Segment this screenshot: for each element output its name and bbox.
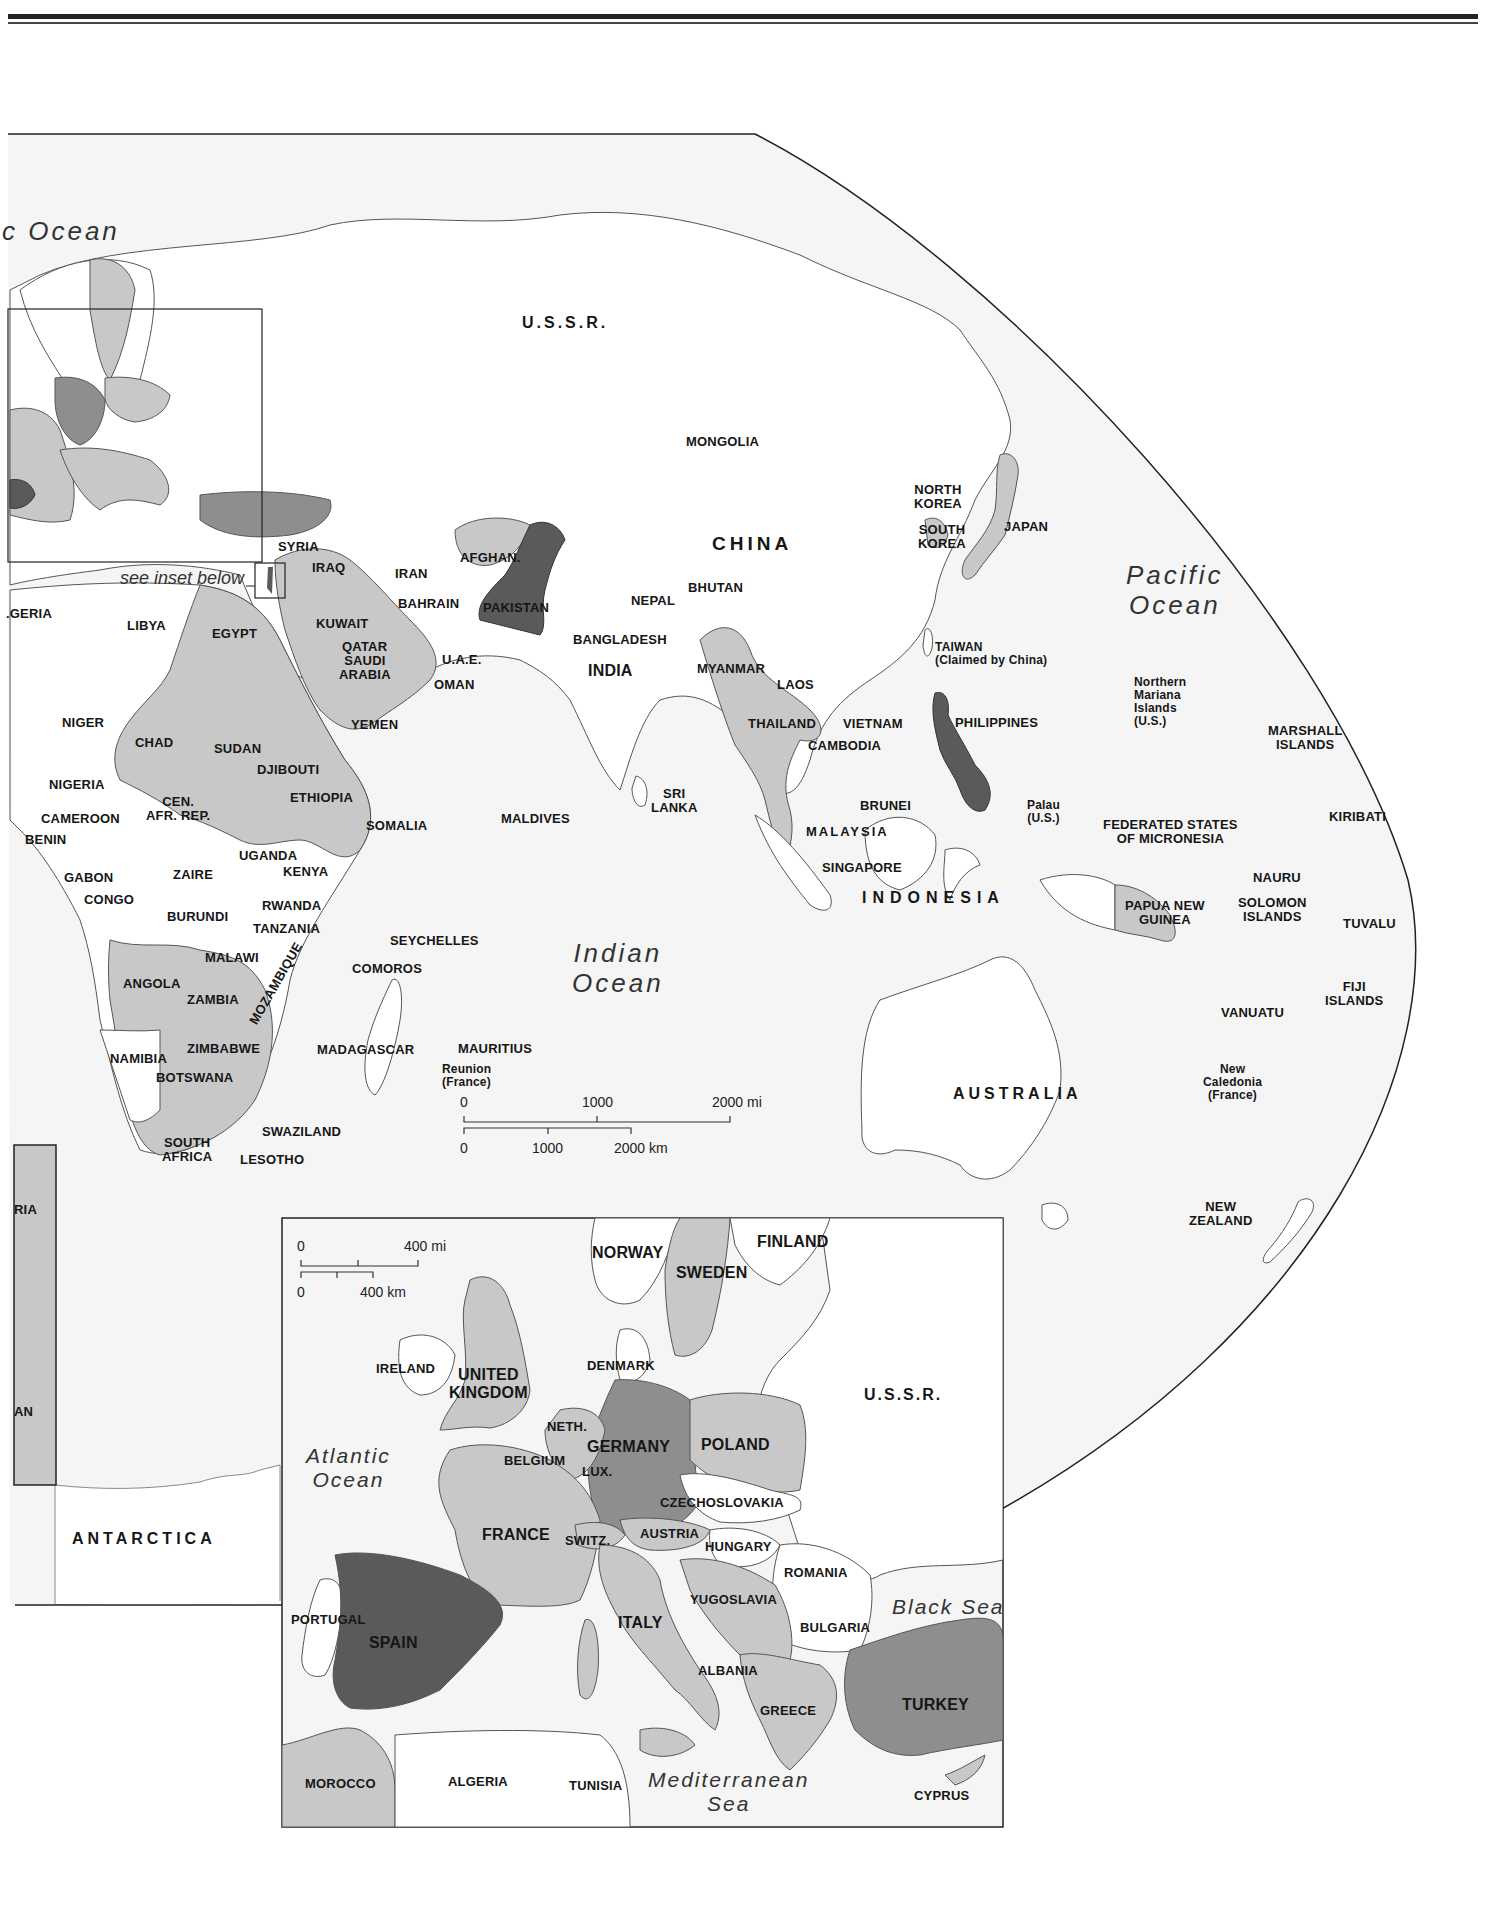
ocean-label-arctic: c Ocean [2,216,120,246]
country-label-angola: ANGOLA [123,977,181,991]
country-label-kiribati: KIRIBATI [1329,810,1386,824]
inset-country-label-portugal: PORTUGAL [291,1613,366,1627]
inset-country-label-hungary: HUNGARY [705,1540,772,1554]
inset-sea-label-atlantic: Atlantic Ocean [306,1444,391,1492]
main-scale-1000km: 1000 [532,1140,563,1156]
country-label-u-s-s-r: U.S.S.R. [522,314,608,332]
country-label-lesotho: LESOTHO [240,1153,304,1167]
country-label-ria: RIA [14,1203,37,1217]
inset-country-label-turkey: TURKEY [902,1696,969,1714]
country-label-reunion-france: Reunion (France) [442,1063,491,1089]
inset-country-label-greece: GREECE [760,1704,816,1718]
country-label-iran: IRAN [395,567,428,581]
country-label-malaysia: MALAYSIA [806,825,889,839]
country-label-malawi: MALAWI [205,951,259,965]
country-label-seychelles: SEYCHELLES [390,934,479,948]
country-label-burundi: BURUNDI [167,910,228,924]
country-label-laos: LAOS [777,678,814,692]
country-label-zimbabwe: ZIMBABWE [187,1042,260,1056]
country-label-tuvalu: TUVALU [1343,917,1396,931]
country-label-somalia: SOMALIA [366,819,427,833]
inset-sea-label-mediterranean: Mediterranean Sea [648,1768,809,1816]
country-label-vanuatu: VANUATU [1221,1006,1284,1020]
country-label-myanmar: MYANMAR [697,662,765,676]
country-label-ethiopia: ETHIOPIA [290,791,353,805]
inset-country-label-ireland: IRELAND [376,1362,435,1376]
country-label-tanzania: TANZANIA [253,922,320,936]
inset-country-label-austria: AUSTRIA [640,1527,699,1541]
country-label-rwanda: RWANDA [262,899,321,913]
country-label-madagascar: MADAGASCAR [317,1043,414,1057]
inset-country-label-italy: ITALY [618,1614,663,1632]
country-label-new-caledonia-france: New Caledonia (France) [1203,1063,1262,1102]
inset-country-label-neth: NETH. [547,1420,587,1434]
inset-sea-label-black-sea: Black Sea [892,1595,1005,1619]
see-inset-note: see inset below [120,566,244,590]
main-scale-2000km: 2000 km [614,1140,668,1156]
country-label-palau-u-s: Palau (U.S.) [1027,799,1060,825]
inset-scale-0mi: 0 [297,1238,305,1254]
country-label-libya: LIBYA [127,619,166,633]
country-label-nigeria: NIGERIA [49,778,105,792]
country-label-bahrain: BAHRAIN [398,597,459,611]
inset-country-label-albania: ALBANIA [698,1664,758,1678]
country-label-nauru: NAURU [1253,871,1301,885]
main-scale-0km: 0 [460,1140,468,1156]
europe-inset [282,1218,1003,1827]
inset-country-label-finland: FINLAND [757,1233,829,1251]
south-america-inset-edge [14,1145,56,1485]
country-label-philippines: PHILIPPINES [955,716,1038,730]
country-label-federated-states-of-micronesia: FEDERATED STATES OF MICRONESIA [1103,818,1238,846]
country-label-benin: BENIN [25,833,66,847]
country-label-singapore: SINGAPORE [822,861,902,875]
country-label-australia: AUSTRALIA [953,1085,1081,1103]
country-label-nepal: NEPAL [631,594,675,608]
country-label-cambodia: CAMBODIA [808,739,881,753]
inset-country-label-france: FRANCE [482,1526,550,1544]
country-label-gabon: GABON [64,871,113,885]
country-label-marshall-islands: MARSHALL ISLANDS [1268,724,1343,752]
main-scale-1000mi: 1000 [582,1094,613,1110]
country-label-u-a-e: U.A.E. [442,653,481,667]
country-label-saudi-arabia: SAUDI ARABIA [339,654,391,682]
country-label-sri-lanka: SRI LANKA [651,787,698,815]
inset-country-label-poland: POLAND [701,1436,770,1454]
land-taiwan [923,629,933,656]
country-label-kenya: KENYA [283,865,328,879]
country-label-maldives: MALDIVES [501,812,570,826]
country-label-iraq: IRAQ [312,561,345,575]
country-label-yemen: YEMEN [351,718,398,732]
inset-country-label-czechoslovakia: CZECHOSLOVAKIA [660,1496,784,1510]
inset-scale-0km: 0 [297,1284,305,1300]
inset-country-label-morocco: MOROCCO [305,1777,376,1791]
country-label-qatar: QATAR [342,640,387,654]
country-label-uganda: UGANDA [239,849,297,863]
inset-country-label-belgium: BELGIUM [504,1454,565,1468]
country-label-djibouti: DJIBOUTI [257,763,319,777]
country-label-northern-mariana-islands-u-s: Northern Mariana Islands (U.S.) [1134,676,1186,728]
country-label-vietnam: VIETNAM [843,717,903,731]
inset-country-label-germany: GERMANY [587,1438,670,1456]
inset-country-label-sweden: SWEDEN [676,1264,747,1282]
country-label-taiwan-claimed-by-china: TAIWAN (Claimed by China) [935,641,1047,667]
country-label-cen-afr-rep: CEN. AFR. REP. [146,795,210,823]
country-label-namibia: NAMIBIA [110,1052,167,1066]
inset-country-label-united-kingdom: UNITED KINGDOM [449,1366,528,1402]
inset-country-label-yugoslavia: YUGOSLAVIA [690,1593,777,1607]
ocean-label-indian: Indian Ocean [572,938,664,998]
country-label-fiji-islands: FIJI ISLANDS [1325,980,1383,1008]
country-label-brunei: BRUNEI [860,799,911,813]
country-label-mauritius: MAURITIUS [458,1042,532,1056]
country-label-japan: JAPAN [1004,520,1048,534]
country-label-swaziland: SWAZILAND [262,1125,341,1139]
inset-scale-400mi: 400 mi [404,1238,446,1254]
country-label-bhutan: BHUTAN [688,581,743,595]
country-label-kuwait: KUWAIT [316,617,368,631]
inset-country-label-norway: NORWAY [592,1244,663,1262]
country-label-sudan: SUDAN [214,742,261,756]
ocean-label-pacific: Pacific Ocean [1126,560,1224,620]
country-label-thailand: THAILAND [748,717,816,731]
country-label-botswana: BOTSWANA [156,1071,233,1085]
inset-land-germany [588,1380,700,1535]
country-label-congo: CONGO [84,893,134,907]
